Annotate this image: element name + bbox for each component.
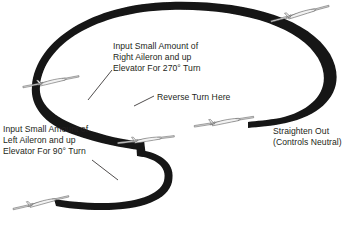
- flight-path-band: [32, 2, 337, 210]
- leader-line-90-turn: [92, 160, 118, 180]
- annotation-left-turn-line2: Left Aileron and up: [3, 135, 88, 146]
- leader-line-270-turn: [88, 70, 112, 100]
- annotation-right-turn-line1: Input Small Amount of: [113, 41, 201, 52]
- annotation-reverse-turn-line1: Reverse Turn Here: [157, 92, 230, 103]
- annotation-reverse-turn: Reverse Turn Here: [157, 92, 230, 103]
- annotation-straighten-out-line1: Straighten Out: [273, 126, 342, 137]
- flight-maneuver-diagram: Input Small Amount of Right Aileron and …: [0, 0, 363, 225]
- annotation-right-turn-line3: Elevator For 270° Turn: [113, 63, 201, 74]
- annotation-left-turn: Input Small Amount of Left Aileron and u…: [3, 124, 88, 158]
- annotation-straighten-out-line2: (Controls Neutral): [273, 137, 342, 148]
- annotation-left-turn-line3: Elevator For 90° Turn: [3, 146, 88, 157]
- annotation-left-turn-line1: Input Small Amount of: [3, 124, 88, 135]
- flight-path-graphic: [0, 0, 363, 225]
- airplane-right-exit-icon: [194, 115, 254, 128]
- airplane-center-inflection-icon: [117, 134, 174, 144]
- airplane-left-upper-icon: [22, 74, 79, 88]
- leader-lines: [88, 70, 154, 180]
- airplane-top-right-icon: [270, 4, 330, 23]
- leader-line-reverse-turn: [134, 96, 154, 106]
- annotation-straighten-out: Straighten Out (Controls Neutral): [273, 126, 342, 148]
- annotation-right-turn-line2: Right Aileron and up: [113, 52, 201, 63]
- annotation-right-turn: Input Small Amount of Right Aileron and …: [113, 41, 201, 75]
